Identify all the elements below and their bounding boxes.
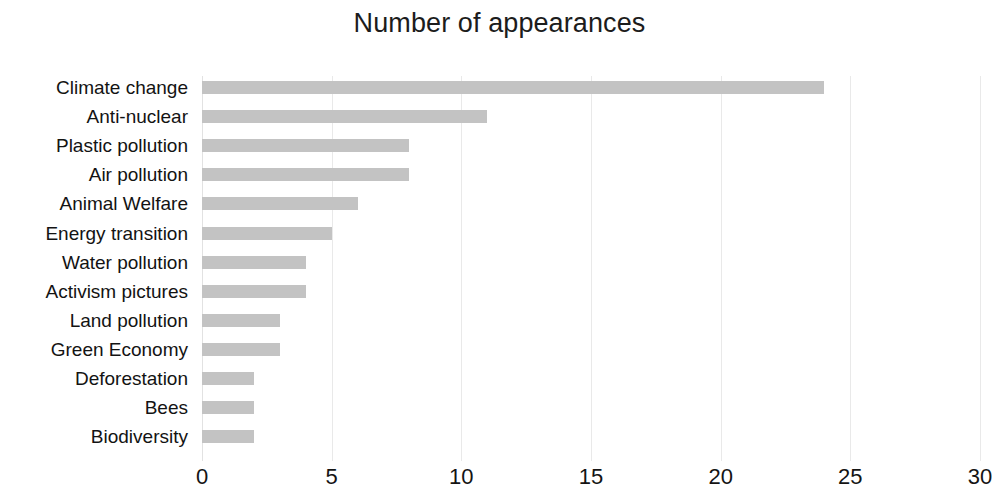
x-tick-label: 25 — [820, 463, 880, 491]
bars-layer — [202, 76, 980, 461]
bar — [202, 168, 409, 181]
category-label: Bees — [0, 396, 188, 419]
bar — [202, 227, 332, 240]
category-label: Animal Welfare — [0, 192, 188, 215]
bar-chart: Number of appearances Climate changeAnti… — [0, 0, 999, 501]
category-label: Air pollution — [0, 163, 188, 186]
category-label: Climate change — [0, 76, 188, 99]
x-tick-label: 15 — [561, 463, 621, 491]
category-label: Plastic pollution — [0, 134, 188, 157]
x-tick-label: 0 — [172, 463, 232, 491]
x-tick-label: 5 — [302, 463, 362, 491]
bar — [202, 343, 280, 356]
x-tick-label: 20 — [691, 463, 751, 491]
chart-title: Number of appearances — [0, 6, 999, 40]
category-label: Anti-nuclear — [0, 105, 188, 128]
category-label: Land pollution — [0, 309, 188, 332]
plot-area — [202, 76, 980, 461]
category-label: Biodiversity — [0, 425, 188, 448]
category-label: Green Economy — [0, 338, 188, 361]
category-label: Deforestation — [0, 367, 188, 390]
x-tick-label: 30 — [950, 463, 999, 491]
bar — [202, 285, 306, 298]
x-tick-label: 10 — [431, 463, 491, 491]
bar — [202, 401, 254, 414]
gridline-30 — [980, 76, 981, 461]
bar — [202, 372, 254, 385]
bar — [202, 139, 409, 152]
x-axis-tick-labels: 051015202530 — [0, 463, 999, 501]
category-label: Water pollution — [0, 251, 188, 274]
bar — [202, 197, 358, 210]
bar — [202, 81, 824, 94]
category-label: Energy transition — [0, 222, 188, 245]
category-axis-labels: Climate changeAnti-nuclearPlastic pollut… — [0, 76, 188, 461]
category-label: Activism pictures — [0, 280, 188, 303]
bar — [202, 256, 306, 269]
bar — [202, 314, 280, 327]
bar — [202, 110, 487, 123]
bar — [202, 430, 254, 443]
